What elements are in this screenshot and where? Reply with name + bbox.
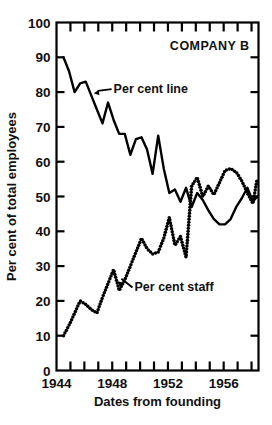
data-dot: [252, 194, 256, 198]
annotation-leader: [98, 89, 112, 91]
data-dot: [186, 235, 190, 239]
data-dot: [255, 179, 259, 183]
data-dot: [185, 241, 189, 245]
data-dot: [169, 224, 173, 228]
annotations: COMPANY BPer cent linePer cent staff: [94, 39, 250, 294]
data-dot: [170, 230, 174, 234]
y-tick-label: 70: [35, 120, 50, 135]
data-dot: [188, 205, 192, 209]
data-dot: [184, 253, 188, 257]
data-dot: [253, 188, 257, 192]
y-axis: 0102030405060708090100: [28, 16, 259, 379]
data-dot: [188, 211, 192, 215]
x-tick-label: 1952: [153, 376, 183, 391]
data-dot: [254, 185, 257, 189]
annotation-arrowhead: [94, 90, 100, 95]
y-tick-label: 100: [28, 16, 51, 31]
data-dot: [189, 194, 193, 198]
data-dot: [172, 239, 176, 243]
x-tick-label: 1956: [209, 376, 240, 391]
y-tick-label: 20: [35, 294, 50, 309]
data-dot: [185, 244, 189, 248]
data-dot: [186, 232, 190, 236]
data-dot: [171, 233, 175, 237]
data-dot: [189, 191, 193, 195]
data-dot: [188, 208, 192, 212]
data-dot: [187, 226, 191, 230]
data-dot: [187, 223, 191, 227]
series-per-cent-staff: [62, 167, 259, 337]
data-dot: [189, 200, 193, 204]
data-dot: [190, 188, 194, 192]
data-dot: [187, 217, 191, 221]
y-tick-label: 60: [35, 155, 50, 170]
x-axis: 1944194819521956: [41, 23, 251, 391]
annotation-per-cent-staff: Per cent staff: [135, 280, 215, 294]
data-dot: [187, 220, 191, 224]
x-tick-label: 1948: [97, 376, 128, 391]
y-tick-label: 30: [35, 259, 50, 274]
series-group: [62, 57, 259, 337]
data-dot: [168, 218, 172, 222]
x-axis-title: Dates from founding: [94, 394, 221, 409]
x-tick-label: 1944: [41, 376, 72, 391]
data-dot: [252, 197, 256, 201]
figure-caption: [6, 413, 272, 424]
data-dot: [189, 197, 193, 201]
data-dot: [185, 247, 189, 251]
y-axis-title: Per cent of total employees: [4, 112, 19, 281]
data-dot: [188, 202, 192, 206]
data-dot: [251, 200, 255, 204]
y-tick-label: 90: [35, 50, 50, 65]
company-label: COMPANY B: [170, 39, 250, 53]
y-tick-label: 10: [35, 329, 50, 344]
plot-frame: [57, 23, 259, 371]
y-tick-label: 80: [35, 85, 50, 100]
data-dot: [170, 227, 174, 231]
chart-svg: 01020304050607080901001944194819521956Da…: [0, 0, 272, 410]
data-dot: [186, 238, 190, 242]
data-dot: [254, 182, 258, 186]
figure-chart: 01020304050607080901001944194819521956Da…: [0, 0, 272, 425]
y-tick-label: 40: [35, 224, 50, 239]
data-dot: [186, 229, 190, 233]
data-dot: [172, 236, 176, 240]
data-dot: [169, 221, 173, 225]
y-tick-label: 50: [35, 190, 50, 205]
data-dot: [185, 250, 189, 254]
data-dot: [188, 214, 192, 218]
data-dot: [253, 191, 257, 195]
annotation-per-cent-line: Per cent line: [114, 82, 188, 96]
